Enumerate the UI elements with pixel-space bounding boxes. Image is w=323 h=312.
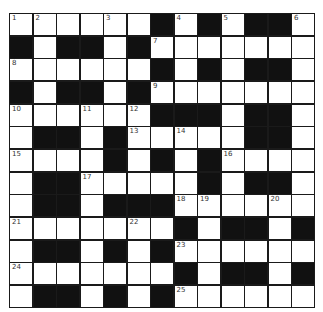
answer-cell[interactable] — [292, 286, 314, 307]
answer-cell[interactable]: 6 — [292, 14, 314, 35]
answer-cell[interactable] — [151, 263, 173, 284]
answer-cell[interactable] — [81, 218, 103, 239]
answer-cell[interactable] — [292, 127, 314, 148]
answer-cell[interactable] — [222, 286, 244, 307]
answer-cell[interactable] — [81, 127, 103, 148]
answer-cell[interactable] — [128, 150, 150, 171]
answer-cell[interactable] — [198, 37, 220, 58]
answer-cell[interactable] — [269, 286, 291, 307]
answer-cell[interactable] — [81, 150, 103, 171]
answer-cell[interactable]: 8 — [10, 59, 32, 80]
answer-cell[interactable] — [104, 218, 126, 239]
answer-cell[interactable]: 22 — [128, 218, 150, 239]
answer-cell[interactable] — [269, 241, 291, 262]
answer-cell[interactable] — [81, 286, 103, 307]
answer-cell[interactable] — [34, 105, 56, 126]
answer-cell[interactable] — [222, 127, 244, 148]
answer-cell[interactable]: 21 — [10, 218, 32, 239]
answer-cell[interactable] — [198, 263, 220, 284]
answer-cell[interactable]: 25 — [175, 286, 197, 307]
answer-cell[interactable] — [269, 218, 291, 239]
answer-cell[interactable] — [10, 173, 32, 194]
answer-cell[interactable] — [34, 150, 56, 171]
answer-cell[interactable]: 13 — [128, 127, 150, 148]
answer-cell[interactable]: 12 — [128, 105, 150, 126]
answer-cell[interactable] — [104, 105, 126, 126]
answer-cell[interactable] — [292, 82, 314, 103]
answer-cell[interactable] — [104, 59, 126, 80]
answer-cell[interactable] — [292, 195, 314, 216]
answer-cell[interactable]: 9 — [151, 82, 173, 103]
answer-cell[interactable] — [292, 37, 314, 58]
answer-cell[interactable] — [222, 105, 244, 126]
answer-cell[interactable] — [128, 59, 150, 80]
answer-cell[interactable] — [10, 127, 32, 148]
answer-cell[interactable] — [104, 82, 126, 103]
answer-cell[interactable] — [128, 286, 150, 307]
answer-cell[interactable] — [175, 59, 197, 80]
answer-cell[interactable] — [222, 59, 244, 80]
answer-cell[interactable] — [222, 241, 244, 262]
answer-cell[interactable] — [34, 218, 56, 239]
answer-cell[interactable] — [292, 241, 314, 262]
answer-cell[interactable]: 7 — [151, 37, 173, 58]
answer-cell[interactable] — [175, 82, 197, 103]
answer-cell[interactable] — [222, 173, 244, 194]
answer-cell[interactable] — [292, 105, 314, 126]
answer-cell[interactable] — [57, 263, 79, 284]
answer-cell[interactable]: 18 — [175, 195, 197, 216]
answer-cell[interactable]: 20 — [269, 195, 291, 216]
answer-cell[interactable] — [57, 218, 79, 239]
answer-cell[interactable] — [151, 218, 173, 239]
answer-cell[interactable]: 1 — [10, 14, 32, 35]
answer-cell[interactable] — [269, 37, 291, 58]
answer-cell[interactable] — [245, 286, 267, 307]
answer-cell[interactable] — [128, 241, 150, 262]
answer-cell[interactable] — [57, 150, 79, 171]
answer-cell[interactable] — [81, 14, 103, 35]
answer-cell[interactable] — [104, 173, 126, 194]
answer-cell[interactable] — [245, 195, 267, 216]
answer-cell[interactable]: 4 — [175, 14, 197, 35]
answer-cell[interactable] — [175, 150, 197, 171]
answer-cell[interactable] — [222, 195, 244, 216]
answer-cell[interactable] — [175, 173, 197, 194]
answer-cell[interactable]: 5 — [222, 14, 244, 35]
answer-cell[interactable]: 10 — [10, 105, 32, 126]
answer-cell[interactable] — [81, 241, 103, 262]
answer-cell[interactable] — [269, 263, 291, 284]
answer-cell[interactable] — [128, 173, 150, 194]
answer-cell[interactable]: 2 — [34, 14, 56, 35]
answer-cell[interactable]: 14 — [175, 127, 197, 148]
answer-cell[interactable] — [245, 241, 267, 262]
answer-cell[interactable] — [245, 150, 267, 171]
answer-cell[interactable]: 15 — [10, 150, 32, 171]
answer-cell[interactable] — [81, 263, 103, 284]
answer-cell[interactable] — [34, 82, 56, 103]
answer-cell[interactable] — [128, 263, 150, 284]
answer-cell[interactable]: 16 — [222, 150, 244, 171]
answer-cell[interactable] — [10, 241, 32, 262]
answer-cell[interactable] — [151, 127, 173, 148]
answer-cell[interactable] — [57, 14, 79, 35]
answer-cell[interactable] — [81, 195, 103, 216]
answer-cell[interactable] — [57, 59, 79, 80]
answer-cell[interactable] — [292, 150, 314, 171]
answer-cell[interactable] — [104, 37, 126, 58]
answer-cell[interactable] — [269, 82, 291, 103]
answer-cell[interactable] — [151, 173, 173, 194]
answer-cell[interactable]: 17 — [81, 173, 103, 194]
answer-cell[interactable] — [10, 286, 32, 307]
answer-cell[interactable] — [104, 263, 126, 284]
answer-cell[interactable] — [57, 105, 79, 126]
answer-cell[interactable] — [222, 37, 244, 58]
answer-cell[interactable]: 24 — [10, 263, 32, 284]
answer-cell[interactable] — [269, 150, 291, 171]
answer-cell[interactable] — [222, 82, 244, 103]
answer-cell[interactable] — [34, 37, 56, 58]
answer-cell[interactable] — [175, 37, 197, 58]
answer-cell[interactable] — [198, 218, 220, 239]
answer-cell[interactable] — [292, 59, 314, 80]
answer-cell[interactable]: 11 — [81, 105, 103, 126]
answer-cell[interactable] — [198, 286, 220, 307]
